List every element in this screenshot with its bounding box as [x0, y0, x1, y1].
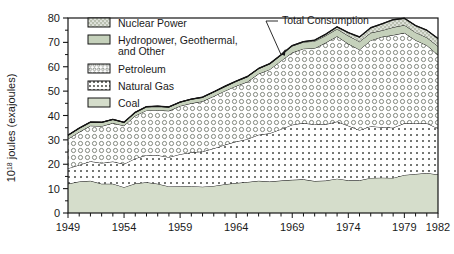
x-tick-label: 1949 — [56, 221, 80, 233]
legend-label: Coal — [118, 97, 140, 109]
svg-text:1018 joules (exajoules): 1018 joules (exajoules) — [5, 74, 17, 183]
legend-item: Natural Gas — [88, 80, 174, 92]
x-tick-label: 1959 — [168, 221, 192, 233]
chart-figure: 0102030405060708019491954195919641969197… — [0, 0, 454, 254]
x-tick-label: 1979 — [392, 221, 416, 233]
y-tick-label: 50 — [48, 85, 60, 97]
y-tick-label: 40 — [48, 110, 60, 122]
y-tick-label: 10 — [48, 183, 60, 195]
x-tick-label: 1969 — [280, 221, 304, 233]
legend-label: Petroleum — [118, 63, 166, 75]
annotation-label: Total Consumption — [282, 14, 369, 26]
legend-label: Natural Gas — [118, 80, 174, 92]
x-tick-label: 1982 — [426, 221, 450, 233]
legend-swatch — [88, 18, 110, 27]
legend-swatch — [88, 81, 110, 90]
y-axis-title: 1018 joules (exajoules) — [5, 74, 17, 183]
legend-swatch — [88, 35, 110, 44]
legend-item: Petroleum — [88, 63, 166, 75]
legend-label-line2: and Other — [118, 45, 165, 57]
x-tick-label: 1954 — [112, 221, 136, 233]
legend-swatch — [88, 64, 110, 73]
legend-swatch — [88, 98, 110, 107]
y-tick-label: 60 — [48, 61, 60, 73]
y-tick-label: 30 — [48, 134, 60, 146]
energy-consumption-area-chart: 0102030405060708019491954195919641969197… — [0, 0, 454, 254]
y-tick-label: 80 — [48, 12, 60, 24]
y-tick-label: 20 — [48, 158, 60, 170]
x-tick-label: 1974 — [336, 221, 360, 233]
legend-item: Nuclear Power — [88, 17, 187, 29]
y-tick-label: 0 — [54, 207, 60, 219]
x-tick-label: 1964 — [224, 221, 248, 233]
legend-label: Nuclear Power — [118, 17, 187, 29]
y-tick-label: 70 — [48, 36, 60, 48]
